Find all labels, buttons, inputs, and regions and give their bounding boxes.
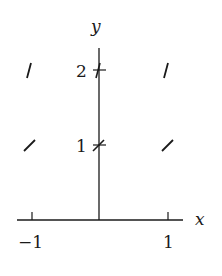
slope-field-diagram: y x 2 1 −1 1: [0, 0, 222, 276]
y-tick-label-2: 2: [76, 61, 87, 81]
slope-segment: [24, 140, 35, 151]
x-tick-label-1: 1: [163, 232, 174, 252]
slope-segment: [164, 63, 168, 78]
x-tick-label-neg1: −1: [18, 232, 43, 252]
slope-segment: [27, 63, 31, 78]
y-axis-label: y: [90, 16, 101, 36]
y-tick-label-1: 1: [76, 136, 87, 156]
slope-segment: [162, 140, 173, 151]
x-axis-label: x: [195, 209, 205, 229]
